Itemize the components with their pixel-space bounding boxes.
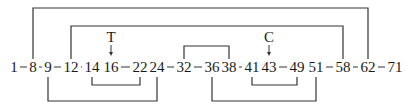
residue-label: 12 xyxy=(64,59,79,75)
residue-label: 32 xyxy=(177,59,192,75)
bracket-links xyxy=(33,8,368,101)
residue-label: 62 xyxy=(361,59,376,75)
sequence-pairing-diagram: 189121416222432363841434951586271 TC xyxy=(0,0,407,109)
residue-label: 24 xyxy=(150,59,166,75)
link-above-32-38 xyxy=(184,46,229,59)
arrowhead-icon xyxy=(267,52,271,56)
link-below-9-24 xyxy=(48,77,157,101)
residue-label: 41 xyxy=(245,59,260,75)
residue-label: 1 xyxy=(10,59,18,75)
link-above-8-62 xyxy=(33,8,368,59)
link-below-41-49 xyxy=(252,77,297,85)
marker-t-label: T xyxy=(106,29,115,45)
residue-label: 43 xyxy=(262,59,277,75)
diagram-canvas: 189121416222432363841434951586271 TC xyxy=(0,0,407,109)
link-below-14-22 xyxy=(92,77,140,85)
residue-label: 49 xyxy=(290,59,305,75)
residue-label: 8 xyxy=(29,59,37,75)
site-markers: TC xyxy=(106,29,274,56)
residue-label: 51 xyxy=(309,59,324,75)
residue-label: 58 xyxy=(336,59,351,75)
sequence-labels: 189121416222432363841434951586271 xyxy=(10,59,402,75)
residue-label: 9 xyxy=(44,59,52,75)
arrowhead-icon xyxy=(109,52,113,56)
residue-label: 38 xyxy=(222,59,237,75)
residue-label: 14 xyxy=(85,59,101,75)
link-below-36-51 xyxy=(212,77,316,101)
residue-label: 22 xyxy=(133,59,148,75)
residue-label: 71 xyxy=(388,59,403,75)
marker-c-label: C xyxy=(264,29,274,45)
residue-label: 36 xyxy=(205,59,221,75)
residue-label: 16 xyxy=(104,59,120,75)
